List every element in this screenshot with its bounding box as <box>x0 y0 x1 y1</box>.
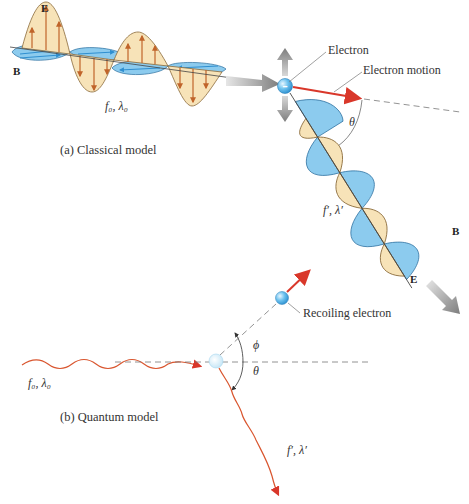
classical-theta-label: θ <box>349 115 355 130</box>
scattered-e-label: E <box>410 273 417 285</box>
incident-em-wave <box>10 2 232 106</box>
quantum-theta-label: θ <box>253 364 259 379</box>
scattered-photon-wave <box>219 368 278 494</box>
recoil-velocity-arrow <box>287 272 308 292</box>
incident-wave-label: f₀, λ₀ <box>105 99 128 114</box>
recoil-direction-dashed <box>220 304 276 355</box>
electron-charge-symbol: – <box>282 80 288 93</box>
target-electron <box>209 354 223 368</box>
incident-b-label: B <box>13 65 20 77</box>
incident-photon-wave <box>22 360 200 369</box>
incident-e-label: E <box>41 2 48 14</box>
scattered-b-label: B <box>452 225 459 237</box>
oscillation-down-arrow <box>277 96 293 122</box>
quantum-incident-label: f₀, λ₀ <box>28 376 51 391</box>
oscillation-up-arrow <box>277 48 293 76</box>
electron-leader-line <box>289 52 326 82</box>
theta-arc-quantum <box>232 362 243 390</box>
quantum-caption: (b) Quantum model <box>60 410 159 425</box>
electron-motion-leader-line <box>334 72 362 92</box>
quantum-scattered-label: f′, λ′ <box>287 443 307 458</box>
recoiling-electron-label: Recoiling electron <box>303 306 391 321</box>
electron-label: Electron <box>328 43 369 58</box>
incident-direction-dashed <box>364 99 460 112</box>
phi-label: ϕ <box>253 338 259 353</box>
recoil-leader-line <box>288 303 300 313</box>
classical-caption: (a) Classical model <box>60 143 157 158</box>
electron-motion-label: Electron motion <box>363 63 441 78</box>
electron-motion-arrow <box>293 87 358 98</box>
recoiling-electron <box>276 292 289 305</box>
scattered-gray-arrow <box>426 280 460 314</box>
incoming-gray-arrow <box>226 74 280 92</box>
scattered-wave-label: f′, λ′ <box>323 203 343 218</box>
scattered-em-wave <box>269 76 439 301</box>
